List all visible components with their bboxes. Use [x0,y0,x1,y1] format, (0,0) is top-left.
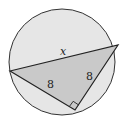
left-leg-label: 8 [47,78,54,91]
right-leg-label: 8 [86,70,93,83]
hypotenuse-label: x [60,45,67,58]
diagram-canvas: x 8 8 [0,0,123,120]
geometry-figure: x 8 8 [0,0,123,120]
